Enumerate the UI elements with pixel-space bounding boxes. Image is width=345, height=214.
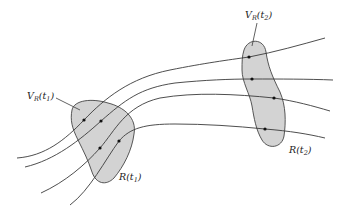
label-v-t2: VR(t2) — [245, 9, 272, 22]
point-t1-3 — [98, 146, 101, 149]
material-volume-diagram: VR(t1) VR(t2) R(t1) R(t2) — [0, 0, 345, 214]
point-t2-3 — [272, 96, 275, 99]
trajectory-2 — [25, 79, 333, 167]
point-t1-4 — [117, 139, 120, 142]
point-t1-2 — [99, 119, 102, 122]
point-t1-1 — [82, 118, 85, 121]
label-v-t1: VR(t1) — [27, 90, 54, 103]
point-t2-2 — [250, 77, 253, 80]
label-r-t1: R(t1) — [118, 171, 142, 184]
label-r-t2: R(t2) — [288, 144, 312, 157]
point-t2-1 — [247, 55, 250, 58]
point-t2-4 — [263, 127, 266, 130]
